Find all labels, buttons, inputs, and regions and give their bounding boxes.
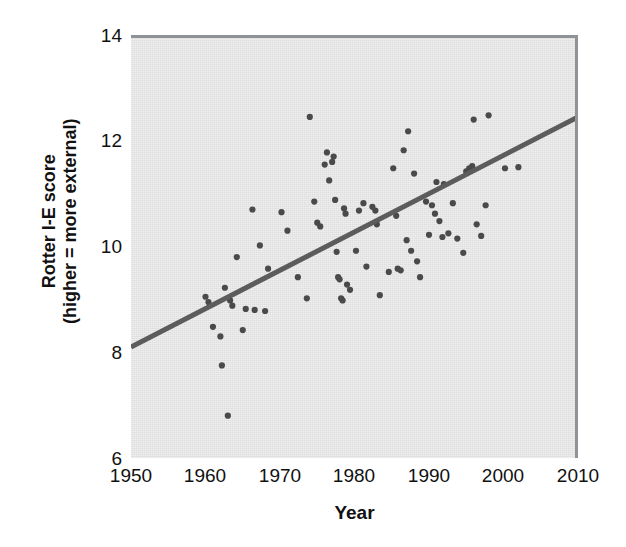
y-tick-12: 12 bbox=[78, 131, 122, 150]
data-point bbox=[426, 232, 432, 238]
data-point bbox=[219, 362, 225, 368]
data-point bbox=[347, 287, 353, 293]
x-tick-2000: 2000 bbox=[463, 466, 543, 485]
plot-canvas bbox=[131, 35, 578, 458]
data-points-layer bbox=[202, 112, 521, 419]
data-point bbox=[332, 197, 338, 203]
data-point bbox=[408, 248, 414, 254]
y-tick-10: 10 bbox=[78, 237, 122, 256]
data-point bbox=[502, 165, 508, 171]
data-point bbox=[398, 267, 404, 273]
data-point bbox=[304, 295, 310, 301]
scatter-plot-figure: 14 12 10 8 6 1950 1960 1970 1980 1990 20… bbox=[0, 0, 626, 547]
x-tick-1950: 1950 bbox=[91, 466, 171, 485]
panel-right-border bbox=[575, 35, 578, 458]
data-point bbox=[454, 235, 460, 241]
data-point bbox=[324, 149, 330, 155]
data-point bbox=[436, 218, 442, 224]
data-point bbox=[344, 281, 350, 287]
data-point bbox=[240, 327, 246, 333]
data-point bbox=[450, 200, 456, 206]
data-point bbox=[439, 234, 445, 240]
data-point bbox=[337, 276, 343, 282]
data-point bbox=[483, 202, 489, 208]
x-tick-1970: 1970 bbox=[240, 466, 320, 485]
data-point bbox=[229, 303, 235, 309]
x-axis-title: Year bbox=[131, 502, 578, 524]
data-point bbox=[341, 205, 347, 211]
data-point bbox=[252, 307, 258, 313]
data-point bbox=[386, 269, 392, 275]
data-point bbox=[262, 308, 268, 314]
data-point bbox=[243, 306, 249, 312]
data-point bbox=[334, 249, 340, 255]
data-point bbox=[353, 248, 359, 254]
data-point bbox=[401, 147, 407, 153]
data-point bbox=[356, 207, 362, 213]
panel-top-border bbox=[131, 35, 578, 38]
data-point bbox=[234, 254, 240, 260]
data-point bbox=[210, 324, 216, 330]
data-point bbox=[284, 228, 290, 234]
y-axis-title-line1: Rotter I-E score bbox=[39, 71, 60, 371]
x-tick-1960: 1960 bbox=[165, 466, 245, 485]
data-point bbox=[329, 159, 335, 165]
data-point bbox=[460, 250, 466, 256]
data-point bbox=[249, 206, 255, 212]
data-point bbox=[471, 117, 477, 123]
data-point bbox=[311, 198, 317, 204]
data-point bbox=[433, 179, 439, 185]
data-point bbox=[414, 258, 420, 264]
x-tick-1980: 1980 bbox=[314, 466, 394, 485]
data-point bbox=[515, 164, 521, 170]
x-tick-2010: 2010 bbox=[538, 466, 618, 485]
data-point bbox=[217, 333, 223, 339]
data-point bbox=[411, 170, 417, 176]
data-point bbox=[429, 202, 435, 208]
data-point bbox=[474, 221, 480, 227]
data-point bbox=[445, 230, 451, 236]
data-point bbox=[331, 154, 337, 160]
data-point bbox=[417, 274, 423, 280]
data-point bbox=[322, 161, 328, 167]
x-tick-1990: 1990 bbox=[389, 466, 469, 485]
data-point bbox=[317, 223, 323, 229]
y-axis-title-line2: (higher = more external) bbox=[60, 71, 81, 371]
data-point bbox=[363, 263, 369, 269]
data-point bbox=[307, 114, 313, 120]
data-point bbox=[278, 209, 284, 215]
data-point bbox=[390, 165, 396, 171]
data-point bbox=[202, 294, 208, 300]
data-point bbox=[423, 198, 429, 204]
data-point bbox=[360, 200, 366, 206]
data-point bbox=[404, 237, 410, 243]
y-tick-8: 8 bbox=[78, 343, 122, 362]
data-point bbox=[225, 413, 231, 419]
data-point bbox=[295, 274, 301, 280]
data-point bbox=[478, 233, 484, 239]
data-point bbox=[377, 292, 383, 298]
y-axis-title: Rotter I-E score (higher = more external… bbox=[39, 71, 81, 371]
data-point bbox=[342, 211, 348, 217]
data-point bbox=[432, 211, 438, 217]
data-point bbox=[372, 207, 378, 213]
trendline-layer bbox=[131, 117, 578, 347]
data-point bbox=[265, 266, 271, 272]
y-tick-14: 14 bbox=[78, 26, 122, 45]
data-point bbox=[257, 242, 263, 248]
trendline bbox=[131, 117, 578, 347]
data-point bbox=[326, 177, 332, 183]
data-point bbox=[486, 112, 492, 118]
data-point bbox=[222, 285, 228, 291]
plot-area bbox=[131, 35, 578, 458]
data-point bbox=[339, 297, 345, 303]
data-point bbox=[405, 128, 411, 134]
